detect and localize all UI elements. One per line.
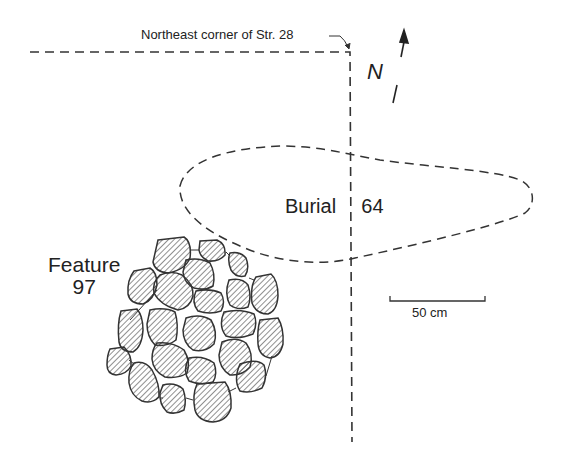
scale-bar-label: 50 cm bbox=[412, 305, 447, 320]
scale-bar bbox=[390, 296, 485, 301]
stone bbox=[186, 357, 216, 384]
burial-label-word: Burial bbox=[285, 195, 336, 217]
stone bbox=[107, 347, 131, 375]
burial-label-number: 64 bbox=[361, 195, 383, 217]
structure-28-outline bbox=[30, 52, 352, 442]
feature-label-number: 97 bbox=[48, 276, 120, 298]
stone bbox=[227, 279, 250, 308]
burial-label: Burial 64 bbox=[285, 195, 384, 218]
stone bbox=[128, 268, 157, 304]
stone bbox=[221, 310, 255, 337]
site-plan-drawing bbox=[0, 0, 561, 468]
stone bbox=[152, 343, 188, 378]
structure-corner-label: Northeast corner of Str. 28 bbox=[141, 27, 293, 42]
stone bbox=[237, 361, 266, 392]
stone bbox=[160, 384, 185, 413]
stone bbox=[229, 253, 248, 277]
north-label: N bbox=[367, 59, 383, 85]
stone bbox=[252, 274, 279, 314]
north-arrow-icon bbox=[393, 30, 408, 103]
stone bbox=[258, 318, 283, 358]
feature-97-stones bbox=[107, 237, 283, 422]
feature-label-word: Feature bbox=[48, 254, 120, 276]
feature-label: Feature 97 bbox=[48, 254, 120, 298]
stone bbox=[199, 240, 225, 261]
stone bbox=[183, 316, 215, 351]
corner-leader-arrow bbox=[329, 36, 350, 49]
stone bbox=[194, 382, 231, 422]
stone bbox=[118, 309, 143, 352]
stone bbox=[147, 309, 177, 346]
stone bbox=[194, 290, 224, 313]
